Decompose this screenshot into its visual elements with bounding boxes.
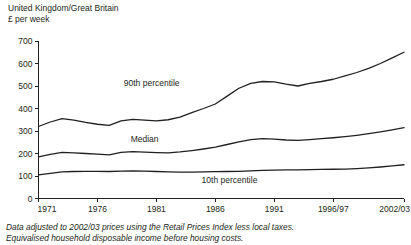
x-tick-label: 2002/03 (379, 204, 410, 214)
y-tick-label: 600 (18, 59, 32, 69)
footnote-line-2: Equivalised household disposable income … (6, 233, 243, 245)
series-label-90th-percentile: 90th percentile (124, 78, 180, 88)
plot-area: 0100200300400500600700 19711976198119861… (0, 0, 411, 245)
x-tick-label: 1976 (88, 204, 107, 214)
x-tick-label: 1981 (147, 204, 166, 214)
data-series-group (39, 52, 405, 175)
line-chart: 0100200300400500600700 19711976198119861… (0, 0, 411, 245)
y-tick-label: 500 (18, 81, 32, 91)
y-tick-label: 100 (18, 171, 32, 181)
series-line-10th-percentile (39, 165, 405, 175)
x-tick-label: 1986 (206, 204, 225, 214)
x-tick-label: 1996/97 (318, 204, 349, 214)
y-tick-label: 700 (18, 36, 32, 46)
footnote-line-1: Data adjusted to 2002/03 prices using th… (6, 222, 294, 234)
series-line-median (39, 128, 405, 157)
series-label-10th-percentile: 10th percentile (202, 175, 258, 185)
y-tick-label: 0 (28, 194, 33, 204)
y-tick-label: 300 (18, 126, 32, 136)
chart-page: United Kingdom/Great Britain £ per week … (0, 0, 411, 245)
series-label-median: Median (131, 134, 159, 144)
x-tick-label: 1991 (265, 204, 284, 214)
series-label-group: 90th percentileMedian10th percentile (124, 78, 258, 185)
y-axis-ticks: 0100200300400500600700 (18, 36, 38, 204)
x-axis-ticks: 197119761981198619911996/972002/03 (38, 199, 411, 214)
y-tick-label: 200 (18, 149, 32, 159)
x-tick-label: 1971 (38, 204, 57, 214)
series-line-90th-percentile (39, 52, 405, 126)
y-tick-label: 400 (18, 104, 32, 114)
